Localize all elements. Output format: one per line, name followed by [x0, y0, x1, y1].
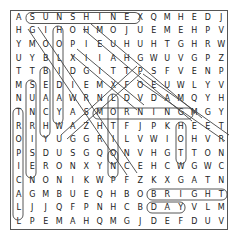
letter-cell[interactable]: D	[147, 201, 161, 215]
letter-cell[interactable]: I	[174, 188, 188, 202]
letter-cell[interactable]: I	[66, 79, 80, 93]
letter-cell[interactable]: M	[161, 25, 175, 39]
letter-cell[interactable]: A	[161, 93, 175, 107]
letter-cell[interactable]: G	[188, 52, 202, 66]
letter-cell[interactable]: F	[120, 79, 134, 93]
letter-cell[interactable]: Q	[93, 188, 107, 202]
letter-cell[interactable]: E	[147, 25, 161, 39]
letter-cell[interactable]: L	[107, 93, 121, 107]
letter-cell[interactable]: R	[39, 161, 53, 175]
letter-cell[interactable]: H	[107, 188, 121, 202]
letter-cell[interactable]: Y	[93, 161, 107, 175]
letter-cell[interactable]: O	[53, 38, 67, 52]
letter-cell[interactable]: M	[93, 25, 107, 39]
letter-cell[interactable]: H	[93, 120, 107, 134]
letter-cell[interactable]: N	[215, 147, 229, 161]
letter-cell[interactable]: R	[120, 106, 134, 120]
letter-cell[interactable]: E	[93, 38, 107, 52]
letter-cell[interactable]: H	[147, 38, 161, 52]
letter-cell[interactable]: N	[53, 174, 67, 188]
letter-cell[interactable]: I	[80, 38, 94, 52]
letter-cell[interactable]: T	[12, 65, 26, 79]
letter-cell[interactable]: P	[12, 147, 26, 161]
letter-cell[interactable]: N	[107, 11, 121, 25]
letter-cell[interactable]: G	[134, 52, 148, 66]
letter-cell[interactable]: V	[188, 201, 202, 215]
letter-cell[interactable]: E	[39, 215, 53, 229]
letter-cell[interactable]: H	[80, 25, 94, 39]
letter-cell[interactable]: W	[93, 174, 107, 188]
letter-cell[interactable]: D	[147, 215, 161, 229]
letter-cell[interactable]: D	[53, 79, 67, 93]
letter-cell[interactable]: O	[107, 106, 121, 120]
letter-cell[interactable]: U	[53, 147, 67, 161]
letter-cell[interactable]: W	[147, 52, 161, 66]
letter-cell[interactable]: L	[201, 201, 215, 215]
letter-cell[interactable]: N	[120, 147, 134, 161]
letter-cell[interactable]: J	[120, 25, 134, 39]
letter-cell[interactable]: H	[39, 120, 53, 134]
letter-cell[interactable]: P	[26, 215, 40, 229]
letter-cell[interactable]: M	[174, 93, 188, 107]
letter-cell[interactable]: M	[53, 215, 67, 229]
letter-cell[interactable]: D	[39, 147, 53, 161]
letter-cell[interactable]: C	[120, 201, 134, 215]
letter-cell[interactable]: T	[107, 65, 121, 79]
letter-cell[interactable]: X	[161, 174, 175, 188]
letter-cell[interactable]: B	[147, 188, 161, 202]
letter-cell[interactable]: H	[120, 52, 134, 66]
letter-cell[interactable]: A	[188, 174, 202, 188]
letter-cell[interactable]: U	[134, 38, 148, 52]
letter-cell[interactable]: H	[188, 25, 202, 39]
letter-cell[interactable]: V	[201, 133, 215, 147]
letter-cell[interactable]: I	[93, 65, 107, 79]
letter-cell[interactable]: G	[80, 147, 94, 161]
letter-cell[interactable]: D	[120, 93, 134, 107]
letter-cell[interactable]: E	[201, 120, 215, 134]
letter-cell[interactable]: H	[201, 188, 215, 202]
letter-cell[interactable]: G	[174, 106, 188, 120]
letter-cell[interactable]: H	[12, 25, 26, 39]
letter-cell[interactable]: I	[66, 174, 80, 188]
letter-cell[interactable]: M	[39, 188, 53, 202]
letter-cell[interactable]: P	[80, 201, 94, 215]
letter-cell[interactable]: H	[80, 11, 94, 25]
letter-cell[interactable]: T	[188, 147, 202, 161]
letter-cell[interactable]: T	[174, 147, 188, 161]
letter-cell[interactable]: K	[147, 174, 161, 188]
letter-cell[interactable]: E	[188, 11, 202, 25]
letter-cell[interactable]: V	[174, 52, 188, 66]
letter-cell[interactable]: H	[53, 25, 67, 39]
letter-cell[interactable]: V	[134, 133, 148, 147]
letter-cell[interactable]: J	[215, 11, 229, 25]
letter-cell[interactable]: U	[12, 52, 26, 66]
letter-cell[interactable]: Y	[53, 106, 67, 120]
letter-cell[interactable]: G	[80, 133, 94, 147]
letter-cell[interactable]: A	[12, 188, 26, 202]
letter-cell[interactable]: U	[201, 215, 215, 229]
letter-cell[interactable]: G	[188, 161, 202, 175]
letter-cell[interactable]: X	[66, 52, 80, 66]
letter-cell[interactable]: Y	[201, 93, 215, 107]
letter-cell[interactable]: J	[134, 215, 148, 229]
letter-cell[interactable]: E	[26, 161, 40, 175]
letter-cell[interactable]: E	[39, 79, 53, 93]
letter-cell[interactable]: I	[161, 133, 175, 147]
letter-cell[interactable]: E	[161, 215, 175, 229]
letter-cell[interactable]: A	[66, 106, 80, 120]
letter-cell[interactable]: E	[188, 120, 202, 134]
letter-cell[interactable]: W	[66, 93, 80, 107]
letter-cell[interactable]: S	[26, 147, 40, 161]
letter-cell[interactable]: N	[26, 174, 40, 188]
letter-cell[interactable]: U	[66, 188, 80, 202]
letter-cell[interactable]: L	[53, 52, 67, 66]
letter-cell[interactable]: N	[107, 161, 121, 175]
letter-cell[interactable]: Y	[215, 106, 229, 120]
letter-cell[interactable]: W	[215, 38, 229, 52]
letter-cell[interactable]: D	[66, 65, 80, 79]
letter-cell[interactable]: I	[26, 133, 40, 147]
letter-cell[interactable]: G	[66, 133, 80, 147]
letter-cell[interactable]: G	[80, 65, 94, 79]
letter-cell[interactable]: S	[66, 11, 80, 25]
letter-cell[interactable]: I	[107, 133, 121, 147]
